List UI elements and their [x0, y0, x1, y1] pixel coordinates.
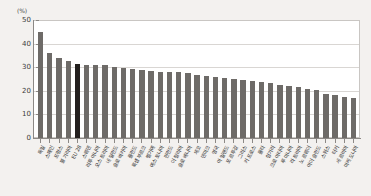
x-label-slot: 그리스	[238, 143, 247, 196]
x-label-slot: 폴란드	[128, 143, 137, 196]
bar-slot	[137, 21, 146, 138]
bar-slot	[248, 21, 257, 138]
x-label-slot: 터키	[331, 143, 340, 196]
bar-slot	[349, 21, 358, 138]
bar-slot	[257, 21, 266, 138]
bar[interactable]	[66, 61, 71, 138]
bar[interactable]	[102, 65, 107, 138]
x-label-slot: 스위스	[321, 143, 330, 196]
y-tick-label: 30	[9, 63, 31, 71]
x-label-slot: 프랑스	[54, 143, 63, 196]
bar[interactable]	[121, 68, 126, 138]
x-label-slot: 네덜란드	[110, 143, 119, 196]
bar[interactable]	[47, 53, 52, 138]
x-label-slot: 루마니아	[284, 143, 293, 196]
bar-slot	[36, 21, 45, 138]
bar[interactable]	[194, 75, 199, 138]
y-tick-label: 50	[9, 16, 31, 24]
bar-slot	[211, 21, 220, 138]
bar-slot	[91, 21, 100, 138]
bar[interactable]	[222, 78, 227, 138]
bar[interactable]	[259, 82, 264, 138]
bar[interactable]	[130, 69, 135, 138]
bar[interactable]	[250, 81, 255, 138]
x-label-slot: 마케도니아	[349, 143, 358, 196]
bar-slot	[146, 21, 155, 138]
bar-slot	[128, 21, 137, 138]
bar-slot	[54, 21, 63, 138]
x-label-slot: 세르비아	[340, 143, 349, 196]
bar-slot	[165, 21, 174, 138]
bar-slot	[321, 21, 330, 138]
bar[interactable]	[305, 89, 310, 138]
bar[interactable]	[277, 85, 282, 138]
bar[interactable]	[351, 98, 356, 138]
bar[interactable]	[185, 73, 190, 138]
bar-slot	[202, 21, 211, 138]
x-label-slot: 독일	[36, 143, 45, 196]
x-label-slot: 노르웨이	[303, 143, 312, 196]
x-label-slot: 키프로스	[248, 143, 257, 196]
x-label-slot: 핀란드	[165, 143, 174, 196]
bar[interactable]	[176, 72, 181, 138]
bar-slot	[303, 21, 312, 138]
bar-slot	[156, 21, 165, 138]
bar-slot	[73, 21, 82, 138]
x-label-slot: 영국	[211, 143, 220, 196]
bar-slot	[238, 21, 247, 138]
bar[interactable]	[75, 64, 80, 138]
bar[interactable]	[158, 72, 163, 138]
bar[interactable]	[204, 76, 209, 138]
bar-slot	[192, 21, 201, 138]
x-axis-labels: 독일스페인프랑스불가리아EU 28스웨덴리투아니아오스트리아네덜란드슬로바키아폴…	[34, 143, 360, 196]
bar-slot	[229, 21, 238, 138]
x-label-slot: 슬로바키아	[119, 143, 128, 196]
bar[interactable]	[268, 83, 273, 138]
y-tick-label: 0	[9, 134, 31, 142]
bar[interactable]	[148, 71, 153, 138]
bar[interactable]	[296, 87, 301, 138]
bar[interactable]	[240, 80, 245, 139]
x-label-slot: 오스트리아	[100, 143, 109, 196]
y-axis-unit-label: (%)	[17, 7, 27, 14]
y-tick-label: 20	[9, 87, 31, 95]
x-label-slot: 아이슬란드	[312, 143, 321, 196]
x-label-slot: 라트비아	[294, 143, 303, 196]
bar[interactable]	[38, 32, 43, 138]
bar[interactable]	[213, 77, 218, 138]
bar[interactable]	[323, 94, 328, 138]
bar[interactable]	[314, 90, 319, 138]
y-tick-label: 40	[9, 40, 31, 48]
x-label-slot: 에스토니아	[156, 143, 165, 196]
bar-slot	[275, 21, 284, 138]
bar[interactable]	[93, 65, 98, 138]
x-label-slot: 포르투갈	[229, 143, 238, 196]
chart-root: (%) 50403020100 독일스페인프랑스불가리아EU 28스웨덴리투아니…	[0, 0, 371, 196]
bar-slot	[340, 21, 349, 138]
bar-slot	[100, 21, 109, 138]
bar[interactable]	[112, 67, 117, 138]
bar[interactable]	[167, 72, 172, 138]
x-label-slot: 몰타	[257, 143, 266, 196]
bar[interactable]	[286, 86, 291, 138]
x-label-slot: EU 28	[73, 143, 82, 196]
bar-slot	[174, 21, 183, 138]
bar[interactable]	[56, 58, 61, 138]
bar[interactable]	[231, 79, 236, 138]
bar-slot	[294, 21, 303, 138]
bar-slot	[119, 21, 128, 138]
bar[interactable]	[139, 70, 144, 138]
bar-slot	[82, 21, 91, 138]
x-label-slot: 아일랜드	[220, 143, 229, 196]
bar[interactable]	[332, 95, 337, 138]
x-label-slot: 룩셈부르크	[137, 143, 146, 196]
x-label-slot: 불가리아	[64, 143, 73, 196]
bar-slot	[220, 21, 229, 138]
x-label-slot: 덴마크	[202, 143, 211, 196]
x-label-slot: 벨기에	[146, 143, 155, 196]
bar-slot	[110, 21, 119, 138]
x-label-slot: 슬로베니아	[183, 143, 192, 196]
bar[interactable]	[84, 65, 89, 138]
bar[interactable]	[342, 97, 347, 138]
bar-slot	[183, 21, 192, 138]
